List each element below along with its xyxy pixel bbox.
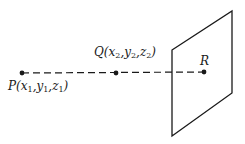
dashed-line-p-to-r [22, 72, 204, 73]
label-r: R [200, 55, 209, 67]
point-p [20, 71, 25, 76]
label-p: P(x1,y1,z1) [8, 80, 68, 94]
point-q [114, 71, 119, 76]
label-q: Q(x2,y2,z2) [94, 46, 156, 60]
diagram-canvas [0, 0, 245, 144]
plane [172, 11, 232, 136]
point-r [202, 70, 207, 75]
